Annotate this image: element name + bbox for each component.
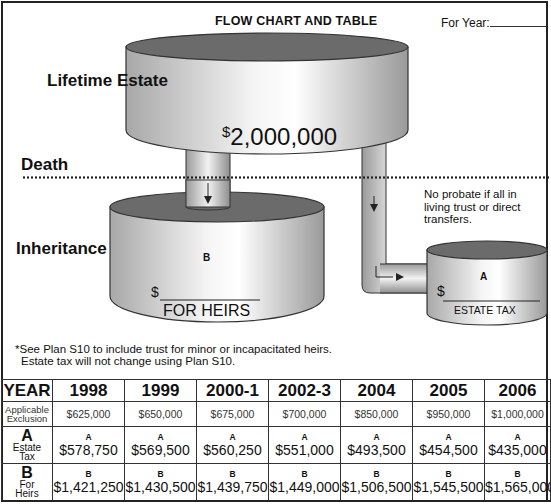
- cell-value: $569,500: [125, 442, 196, 458]
- cell-tag: B: [341, 470, 412, 479]
- cell-tag: B: [53, 470, 124, 479]
- cell-tag: A: [269, 433, 340, 442]
- exclusion-cell: $1,000,000: [485, 402, 551, 427]
- estate-tax-label: AEstateTax: [2, 427, 53, 464]
- year-cell: 2004: [341, 380, 413, 402]
- exclusion-cell: $625,000: [53, 402, 125, 427]
- for-heirs-cell: B$1,449,000: [269, 464, 341, 502]
- cell-value: $1,545,500: [413, 479, 484, 495]
- exclusion-cell: $700,000: [269, 402, 341, 427]
- cell-value: $493,500: [341, 442, 412, 458]
- heirs-label-2: Heirs: [2, 489, 52, 498]
- year-cell: 1998: [53, 380, 125, 402]
- heirs-tank-letter: B: [203, 252, 210, 263]
- year-header: YEAR: [2, 380, 53, 402]
- estate-tax-cell: A$493,500: [341, 427, 413, 464]
- heirs-dollar: $: [151, 284, 159, 300]
- estate-tax-cell: A$551,000: [269, 427, 341, 464]
- estate-tax-cell: A$454,500: [413, 427, 485, 464]
- cell-tag: A: [485, 433, 550, 442]
- cell-tag: A: [53, 433, 124, 442]
- cell-tag: A: [413, 433, 484, 442]
- for-heirs-cell: B$1,430,500: [125, 464, 197, 502]
- year-cell: 2006: [485, 380, 551, 402]
- probate-note: No probate if all in living trust or dir…: [424, 188, 534, 226]
- pipe-to-tax: [362, 140, 432, 293]
- cell-value: $1,439,750: [197, 479, 268, 495]
- lifetime-estate-label: Lifetime Estate: [47, 72, 168, 90]
- for-heirs-cell: B$1,439,750: [197, 464, 269, 502]
- cell-tag: B: [197, 470, 268, 479]
- exclusion-row: ApplicableExclusion $625,000 $650,000 $6…: [2, 402, 551, 427]
- cell-value: $1,565,000: [485, 479, 550, 495]
- estate-tax-caption: ESTATE TAX: [454, 304, 516, 316]
- tax-label-2: Tax: [2, 452, 52, 461]
- exclusion-cell: $950,000: [413, 402, 485, 427]
- for-heirs-cell: B$1,565,000: [485, 464, 551, 502]
- estate-tax-table: YEAR 1998 1999 2000-1 2002-3 2004 2005 2…: [1, 379, 551, 502]
- for-heirs-cell: B$1,506,500: [341, 464, 413, 502]
- cell-value: $454,500: [413, 442, 484, 458]
- year-row: YEAR 1998 1999 2000-1 2002-3 2004 2005 2…: [2, 380, 551, 402]
- cell-value: $551,000: [269, 442, 340, 458]
- cell-value: $1,421,250: [53, 479, 124, 495]
- tax-letter: A: [2, 429, 52, 443]
- cell-value: $1,430,500: [125, 479, 196, 495]
- for-heirs-cell: B$1,545,500: [413, 464, 485, 502]
- footnote: *See Plan S10 to include trust for minor…: [15, 343, 332, 367]
- cell-tag: A: [341, 433, 412, 442]
- year-cell: 2002-3: [269, 380, 341, 402]
- footnote-line-1: *See Plan S10 to include trust for minor…: [15, 343, 332, 355]
- estate-tax-cell: A$569,500: [125, 427, 197, 464]
- tax-tank-letter: A: [480, 271, 487, 282]
- footnote-line-2: Estate tax will not change using Plan S1…: [15, 355, 332, 367]
- year-cell: 2000-1: [197, 380, 269, 402]
- cell-value: $435,000: [485, 442, 550, 458]
- estate-tax-cell: A$560,250: [197, 427, 269, 464]
- cell-tag: B: [485, 470, 550, 479]
- cell-value: $1,506,500: [341, 479, 412, 495]
- exclusion-label-2: Exclusion: [7, 413, 48, 424]
- cell-tag: B: [269, 470, 340, 479]
- cell-value: $1,449,000: [269, 479, 340, 495]
- cell-tag: B: [125, 470, 196, 479]
- exclusion-cell: $650,000: [125, 402, 197, 427]
- for-heirs-caption: FOR HEIRS: [163, 302, 250, 320]
- estate-amount-value: 2,000,000: [230, 123, 337, 150]
- estate-tax-cell: A$435,000: [485, 427, 551, 464]
- year-cell: 1999: [125, 380, 197, 402]
- death-label: Death: [21, 156, 68, 174]
- year-cell: 2005: [413, 380, 485, 402]
- exclusion-cell: $675,000: [197, 402, 269, 427]
- for-heirs-row: BForHeirs B$1,421,250 B$1,430,500 B$1,43…: [2, 464, 551, 502]
- exclusion-label: ApplicableExclusion: [2, 402, 53, 427]
- inheritance-label: Inheritance: [16, 240, 107, 258]
- death-line: [22, 176, 550, 179]
- heirs-tank: [110, 180, 324, 322]
- estate-tax-cell: A$578,750: [53, 427, 125, 464]
- for-heirs-cell: B$1,421,250: [53, 464, 125, 502]
- cell-tag: A: [197, 433, 268, 442]
- tax-dollar: $: [437, 283, 445, 299]
- estate-tax-row: AEstateTax A$578,750 A$569,500 A$560,250…: [2, 427, 551, 464]
- estate-amount: $2,000,000: [222, 123, 337, 151]
- heirs-letter: B: [2, 466, 52, 480]
- cell-tag: A: [125, 433, 196, 442]
- cell-value: $578,750: [53, 442, 124, 458]
- cell-tag: B: [413, 470, 484, 479]
- exclusion-cell: $850,000: [341, 402, 413, 427]
- cell-value: $560,250: [197, 442, 268, 458]
- for-heirs-label: BForHeirs: [2, 464, 53, 502]
